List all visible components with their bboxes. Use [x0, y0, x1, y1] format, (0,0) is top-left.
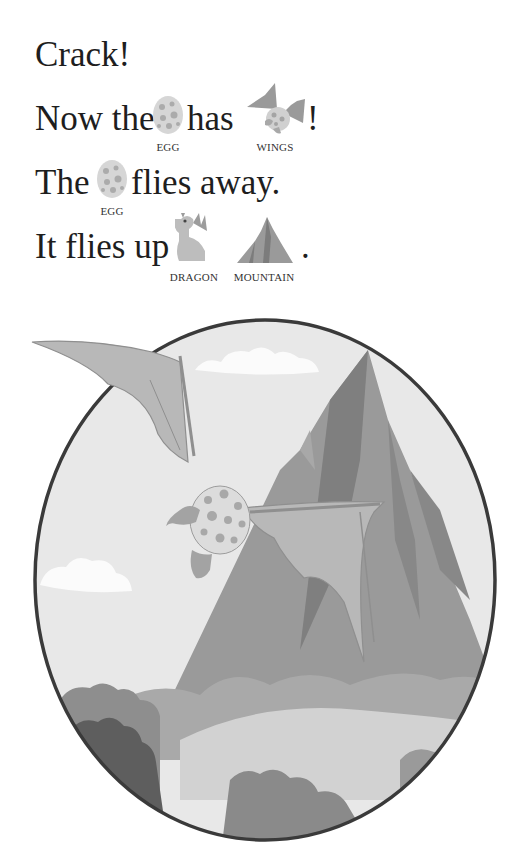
label-dragon: DRAGON — [166, 271, 222, 283]
scene-illustration — [0, 300, 530, 862]
mountain-icon — [237, 217, 293, 263]
label-egg: EGG — [153, 141, 183, 153]
text-period: . — [301, 227, 310, 267]
rebus-wings — [245, 83, 307, 139]
text-flies-away: flies away. — [131, 163, 280, 203]
winged-egg-icon — [245, 83, 307, 139]
text-the: The — [35, 163, 89, 203]
label-mountain: MOUNTAIN — [227, 271, 301, 283]
text-crack: Crack! — [35, 35, 130, 75]
text-it-flies-up: It flies up — [35, 227, 169, 267]
rebus-egg — [152, 93, 184, 135]
rebus-egg-2 — [96, 157, 128, 199]
illustration-flying-egg-dragon — [0, 300, 530, 862]
rebus-dragon — [175, 211, 211, 263]
text-has: has — [187, 99, 234, 139]
egg-body — [190, 486, 250, 554]
label-wings: WINGS — [245, 141, 305, 153]
rebus-mountain — [237, 217, 293, 263]
text-now-the: Now the — [35, 99, 155, 139]
dragon-icon — [175, 211, 211, 263]
egg-icon — [152, 93, 184, 135]
text-exclaim: ! — [307, 99, 319, 139]
label-egg: EGG — [97, 205, 127, 217]
egg-icon — [96, 157, 128, 199]
